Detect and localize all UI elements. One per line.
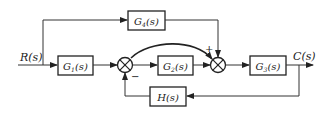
block-g4: G4(s) xyxy=(128,11,165,30)
block-diagram: R(s) G4(s) + G1(s) − G2(s) xyxy=(0,0,332,113)
input-label: R(s) xyxy=(19,51,43,64)
block-g1: G1(s) xyxy=(58,56,93,75)
output-label: C(s) xyxy=(293,50,316,63)
block-g2: G2(s) xyxy=(158,56,193,75)
block-h: H(s) xyxy=(150,87,186,106)
summing-junction-2 xyxy=(211,58,226,73)
minus-sign-s1: − xyxy=(131,71,139,82)
svg-text:G4(s): G4(s) xyxy=(134,16,159,28)
block-g3: G3(s) xyxy=(250,56,286,75)
plus-sign-s2: + xyxy=(205,43,213,54)
svg-text:G3(s): G3(s) xyxy=(256,61,281,73)
svg-text:G1(s): G1(s) xyxy=(63,61,88,73)
svg-text:H(s): H(s) xyxy=(156,92,179,103)
svg-text:G2(s): G2(s) xyxy=(163,61,188,73)
